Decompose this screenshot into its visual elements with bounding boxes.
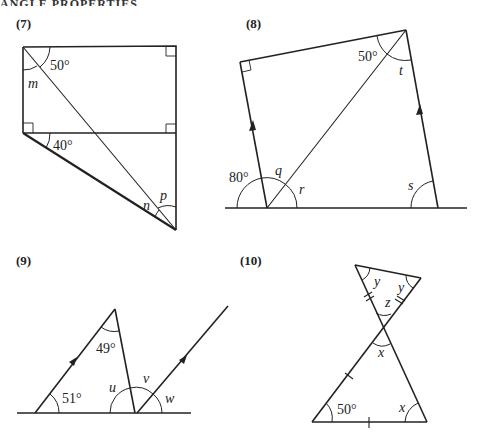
angle-arc-r <box>285 184 297 208</box>
angle-label-v: v <box>143 371 150 386</box>
top-edge <box>240 30 406 62</box>
angle-arc-49 <box>101 327 119 332</box>
angle-arc-x <box>405 403 418 422</box>
angle-label-x: x <box>398 400 406 415</box>
diagram-8: 80° q r s 50° t <box>225 30 467 208</box>
angle-label-x: x <box>377 345 385 360</box>
diagram-canvas: 50° m 40° n p 80° q r s 50° t <box>0 0 480 446</box>
angle-label-t: t <box>399 63 404 78</box>
angle-label-y: y <box>396 280 405 295</box>
equal-side-mark <box>397 296 405 301</box>
right-angle-mark <box>166 124 176 133</box>
right-angle-mark <box>23 123 33 133</box>
angle-arc-50 <box>40 47 50 67</box>
angle-arc-40 <box>46 133 50 148</box>
angle-arc-p <box>158 206 176 208</box>
right-angle-mark <box>166 47 176 56</box>
equal-side-mark <box>395 299 403 304</box>
angle-arc-51 <box>50 394 59 413</box>
angle-label-49: 49° <box>96 341 116 356</box>
parallel-arrow-icon <box>69 357 77 366</box>
angle-arc-y <box>362 268 370 280</box>
angle-label-u: u <box>109 380 116 395</box>
diagram-7: 50° m 40° n p <box>23 46 176 230</box>
angle-arc-50 <box>377 36 387 54</box>
diagram-9: 51° 49° u v w <box>17 306 228 413</box>
diagonal-line <box>23 47 176 230</box>
angle-label-m: m <box>28 76 38 91</box>
crossing-line-1 <box>355 265 427 422</box>
angle-label-50: 50° <box>358 49 378 64</box>
diagonal-line <box>267 30 406 208</box>
angle-label-s: s <box>408 178 414 193</box>
angle-arc-50 <box>326 403 332 422</box>
angle-label-y: y <box>372 274 381 289</box>
diagram-10: y y z x 50° x <box>312 265 427 428</box>
angle-label-q: q <box>275 163 282 178</box>
angle-arc-w <box>153 394 162 413</box>
angle-arc-q <box>262 178 285 184</box>
angle-label-p: p <box>159 188 167 203</box>
triangle-right-side <box>115 309 135 413</box>
angle-arc-n <box>155 210 159 217</box>
angle-label-80: 80° <box>229 170 249 185</box>
angle-arc-s <box>411 181 433 208</box>
parallel-arrow-icon <box>249 120 256 131</box>
angle-label-z: z <box>384 295 391 310</box>
parallel-arrow-icon <box>416 104 423 115</box>
angle-label-40: 40° <box>53 138 73 153</box>
angle-label-51: 51° <box>62 391 82 406</box>
left-parallel-side <box>240 62 267 208</box>
top-triangle-top-edge <box>355 265 421 278</box>
angle-arc-m <box>23 66 37 70</box>
angle-label-50: 50° <box>337 402 357 417</box>
angle-label-50: 50° <box>50 58 70 73</box>
angle-arc-t <box>387 54 411 60</box>
angle-label-r: r <box>299 182 305 197</box>
angle-arc-v <box>130 387 153 394</box>
angle-label-n: n <box>143 198 150 213</box>
angle-label-w: w <box>165 391 175 406</box>
